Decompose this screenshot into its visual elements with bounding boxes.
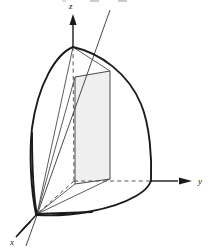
y-axis-label: y: [197, 176, 202, 186]
z-axis-label: z: [68, 1, 73, 11]
solid-region-diagram: z y x: [0, 0, 213, 249]
shaded-cross-section: [75, 71, 110, 184]
x-axis-label: x: [9, 237, 14, 247]
figure-root: z y x: [0, 0, 213, 249]
